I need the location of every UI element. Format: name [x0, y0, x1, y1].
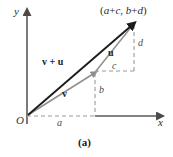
endpoint-coordinate-label: (a+c, b+d) — [100, 5, 147, 16]
x-axis-label: x — [158, 117, 163, 128]
component-c-label: c — [112, 61, 116, 71]
vector-sum-label: v + u — [42, 57, 63, 67]
vector-addition-figure: y x O (a+c, b+d) v + u v u a b c d (a) — [0, 0, 173, 157]
vector-u-label: u — [108, 48, 114, 58]
vector-v-label: v — [62, 89, 67, 99]
component-a-label: a — [57, 118, 62, 128]
component-d-label: d — [138, 38, 143, 48]
vector-diagram-svg — [0, 0, 173, 157]
figure-caption: (a) — [78, 136, 91, 148]
point-close-paren: ) — [143, 4, 147, 16]
y-axis-label: y — [14, 6, 19, 17]
vector-v-arrow — [28, 74, 93, 115]
origin-label: O — [16, 115, 24, 126]
component-b-label: b — [99, 85, 104, 95]
